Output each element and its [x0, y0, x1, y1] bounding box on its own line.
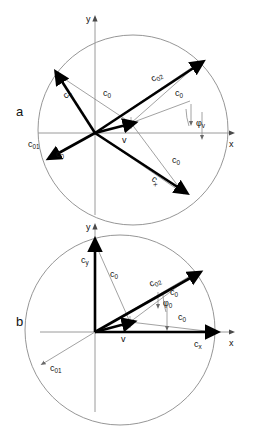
panel-b-label: b	[16, 314, 23, 329]
panel-a-label-c02: c02	[149, 69, 165, 85]
panel-a-label-angle-phi-v: φv	[196, 118, 206, 129]
panel-b-construction-to-cy	[95, 243, 130, 322]
panel-a-circle	[38, 35, 228, 225]
panel-a-vector-c01	[57, 133, 95, 154]
panel-b-label-c01: c01	[50, 363, 62, 374]
panel-a-label-c0-upper-right: c0	[175, 88, 184, 99]
vector-diagram-figure: x y a cy cx c02 c01 v c0 c0	[0, 0, 258, 433]
panel-b-label-v: v	[121, 334, 126, 344]
panel-b-label-c02: c02	[147, 274, 163, 290]
panel-a-y-axis-label: y	[86, 14, 91, 24]
panel-a-angle-arc	[186, 109, 189, 126]
panel-a-label-v: v	[122, 135, 127, 145]
panel-a-x-axis-label: x	[229, 139, 234, 149]
panel-b-label-angle-phi-0: φ0	[163, 298, 173, 309]
panel-a-label: a	[16, 104, 24, 119]
panel-a-label-c0-upper-left: c0	[103, 88, 112, 99]
panel-b-vector-c01	[44, 332, 95, 363]
panel-b-label-c0-horizontal: c0	[178, 312, 187, 323]
panel-b-construction-to-cx	[130, 322, 214, 332]
panel-b-circle	[25, 235, 215, 425]
panel-a-vector-cx	[95, 133, 179, 188]
panel-a: x y a cy cx c02 c01 v c0 c0	[16, 14, 234, 225]
panel-b: x y b cy cx c02 c01 v c0 c0 c0 φ0	[16, 222, 234, 425]
panel-b-label-cx: cx	[194, 339, 203, 350]
panel-a-label-c0-lower-right: c0	[172, 155, 181, 166]
panel-b-y-axis-label: y	[86, 222, 91, 232]
panel-a-vector-c02	[95, 67, 195, 133]
panel-b-label-cy: cy	[81, 255, 90, 267]
panel-b-x-axis-label: x	[229, 338, 234, 348]
panel-b-label-c0-diagonal: c0	[170, 287, 179, 298]
panel-b-label-c0-vertical: c0	[110, 269, 119, 280]
